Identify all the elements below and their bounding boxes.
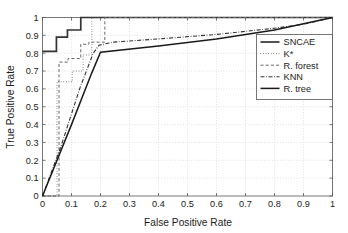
- x-tick-label: 0.1: [65, 199, 78, 209]
- y-tick-label: 0.7: [26, 66, 39, 76]
- x-tick-label: 0.6: [210, 199, 223, 209]
- x-tick-label: 0.4: [152, 199, 165, 209]
- y-tick-label: 0: [33, 191, 38, 201]
- x-tick-label: 0.7: [239, 199, 252, 209]
- y-tick-label: 0.4: [26, 120, 39, 130]
- legend-label-sncae: SNCAE: [284, 37, 316, 47]
- y-tick-label: 0.5: [26, 102, 39, 112]
- y-tick-label: 0.8: [26, 49, 39, 59]
- x-axis-title: False Positive Rate: [144, 217, 232, 228]
- y-tick-label: 1: [33, 13, 38, 23]
- roc-chart-svg: 00.10.20.30.40.50.60.70.80.91 00.10.20.3…: [0, 0, 348, 233]
- x-tick-label: 1: [330, 199, 335, 209]
- y-tick-label: 0.9: [26, 31, 39, 41]
- legend-label-knn: KNN: [284, 72, 303, 82]
- x-tick-label: 0.3: [123, 199, 136, 209]
- y-tick-label: 0.1: [26, 173, 39, 183]
- legend-label-r-forest: R. forest: [284, 61, 319, 71]
- x-tick-label: 0.9: [297, 199, 310, 209]
- y-axis-title: True Positive Rate: [5, 65, 16, 149]
- legend-label-r-tree: R. tree: [284, 84, 312, 94]
- roc-chart-figure: 00.10.20.30.40.50.60.70.80.91 00.10.20.3…: [0, 0, 348, 233]
- y-tick-label: 0.2: [26, 156, 39, 166]
- x-tick-label: 0.2: [94, 199, 107, 209]
- x-tick-label: 0: [40, 199, 45, 209]
- x-tick-label: 0.8: [268, 199, 281, 209]
- legend-label-k: K*: [284, 49, 294, 59]
- legend[interactable]: SNCAEK*R. forestKNNR. tree: [257, 35, 333, 100]
- y-tick-label: 0.3: [26, 138, 39, 148]
- y-tick-label: 0.6: [26, 84, 39, 94]
- x-tick-label: 0.5: [181, 199, 194, 209]
